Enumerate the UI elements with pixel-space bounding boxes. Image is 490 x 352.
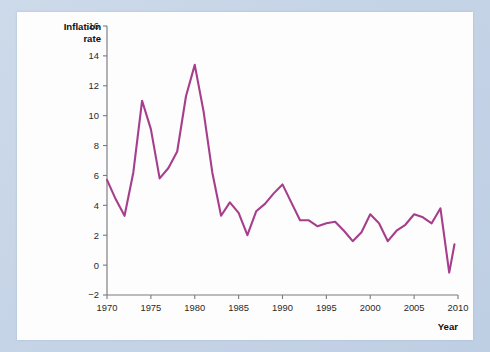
- y-tick-label: 10: [89, 110, 99, 121]
- x-tick-label: 2010: [448, 302, 469, 313]
- x-tick-label: 2000: [360, 302, 381, 313]
- x-tick-label: 1990: [272, 302, 293, 313]
- x-tick-labels: 197019751980198519901995200020052010: [97, 302, 469, 313]
- x-tick-label: 1995: [316, 302, 337, 313]
- y-tick-label: 2: [94, 230, 99, 241]
- y-tick-label: 8: [94, 140, 99, 151]
- figure-card: −20246810121416 197019751980198519901995…: [17, 12, 473, 340]
- x-tick-label: 2005: [404, 302, 425, 313]
- inflation-rate-line-chart: −20246810121416 197019751980198519901995…: [17, 12, 473, 340]
- chart-plot-area: −20246810121416 197019751980198519901995…: [17, 12, 473, 340]
- y-tick-label: 4: [94, 200, 99, 211]
- y-axis-title-line1: Inflation: [64, 21, 101, 32]
- screenshot-canvas: −20246810121416 197019751980198519901995…: [0, 0, 490, 352]
- y-tick-label: 6: [94, 170, 99, 181]
- x-tick-label: 1970: [97, 302, 118, 313]
- plot-background: [17, 12, 473, 340]
- x-tick-label: 1980: [184, 302, 205, 313]
- x-tick-label: 1975: [140, 302, 161, 313]
- y-tick-label: 0: [94, 260, 99, 271]
- y-tick-label: 14: [89, 50, 99, 61]
- x-axis-title: Year: [438, 321, 459, 332]
- y-tick-label: −2: [88, 289, 99, 300]
- y-tick-label: 12: [89, 80, 99, 91]
- y-axis-title-line2: rate: [83, 33, 101, 44]
- x-tick-label: 1985: [228, 302, 249, 313]
